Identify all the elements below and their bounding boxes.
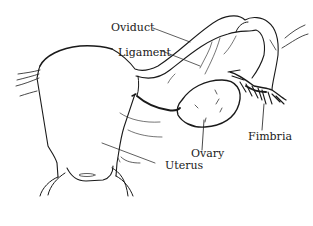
label-uterus: Uterus xyxy=(165,160,203,171)
uterus-shape xyxy=(16,46,162,196)
label-fimbria: Fimbria xyxy=(248,131,292,142)
label-ovary: Ovary xyxy=(191,148,224,159)
anatomy-diagram xyxy=(0,0,313,226)
label-ligament: Ligament xyxy=(118,47,171,58)
label-oviduct: Oviduct xyxy=(111,22,154,33)
fimbria-shape xyxy=(228,70,286,130)
ovary-shape xyxy=(177,80,240,150)
